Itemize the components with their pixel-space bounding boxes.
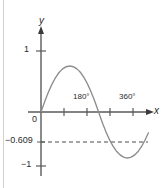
reference-line-label: −0.609 bbox=[5, 136, 33, 145]
x-axis-arrowhead bbox=[146, 109, 154, 115]
origin-label-0: 0 bbox=[32, 115, 37, 124]
x-axis-label: x bbox=[154, 106, 159, 116]
y-tick-label-1: 1 bbox=[24, 45, 29, 54]
y-axis-label: y bbox=[39, 16, 44, 26]
y-axis-arrowhead bbox=[38, 26, 44, 34]
x-tick-label-360: 360° bbox=[119, 93, 136, 101]
y-tick-label-neg-1: −1 bbox=[21, 160, 31, 169]
x-tick-label-180: 180° bbox=[73, 93, 90, 101]
